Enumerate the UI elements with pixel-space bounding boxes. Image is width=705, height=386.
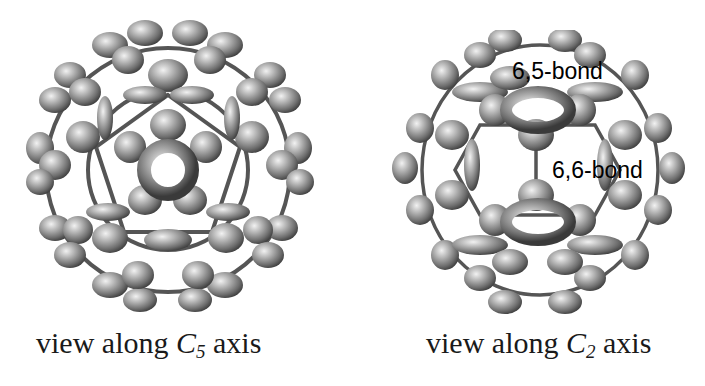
caption-prefix: view along	[426, 326, 566, 359]
fullerene-c5-graphic	[0, 0, 330, 320]
label-6-6-bond: 6,6-bond	[552, 157, 643, 184]
caption-suffix: axis	[595, 326, 651, 359]
label-6-5-bond: 6,5-bond	[512, 58, 603, 85]
axis-symbol: C	[176, 326, 196, 359]
caption-c2-view: view along C2 axis	[426, 326, 651, 363]
fullerene-c5-view	[0, 0, 330, 320]
axis-symbol: C	[566, 326, 586, 359]
caption-suffix: axis	[205, 326, 261, 359]
caption-prefix: view along	[36, 326, 176, 359]
caption-c5-view: view along C5 axis	[36, 326, 261, 363]
